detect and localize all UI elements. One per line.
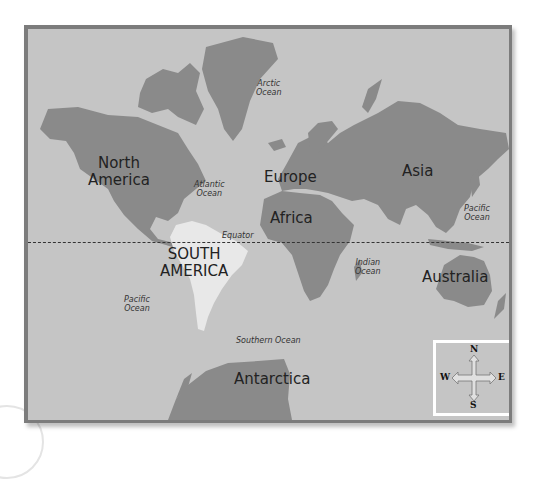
- novaya-zemlya: [362, 79, 382, 113]
- compass-south: S: [470, 400, 477, 410]
- label-asia: Asia: [402, 163, 433, 180]
- label-southern-ocean: Southern Ocean: [236, 337, 301, 346]
- arctic-islands: [138, 63, 204, 125]
- equator-line: [28, 242, 509, 243]
- label-indian-ocean: Indian Ocean: [355, 259, 381, 277]
- compass-north: N: [470, 344, 478, 354]
- compass-west: W: [440, 372, 450, 382]
- compass-east: E: [498, 372, 505, 382]
- compass-rose: N S E W: [433, 340, 509, 416]
- label-north-america: North America: [88, 155, 150, 188]
- label-pacific-ocean-west: Pacific Ocean: [124, 296, 150, 314]
- new-zealand: [494, 293, 506, 319]
- equator-label: Equator: [222, 232, 253, 241]
- africa-land: [260, 191, 354, 301]
- antarctica-land: [168, 359, 292, 420]
- label-australia: Australia: [422, 269, 488, 286]
- label-europe: Europe: [264, 169, 317, 186]
- label-atlantic-ocean: Atlantic Ocean: [194, 181, 225, 199]
- map-frame: Equator North America SOUTH AMERICA Euro…: [24, 25, 512, 423]
- label-antarctica: Antarctica: [234, 371, 310, 388]
- label-africa: Africa: [270, 210, 313, 227]
- world-map: Equator North America SOUTH AMERICA Euro…: [28, 29, 509, 420]
- label-pacific-ocean-east: Pacific Ocean: [464, 205, 490, 223]
- iceland: [268, 139, 286, 151]
- label-south-america: SOUTH AMERICA: [160, 246, 228, 279]
- label-arctic-ocean: Arctic Ocean: [256, 80, 282, 98]
- indonesia: [428, 239, 484, 251]
